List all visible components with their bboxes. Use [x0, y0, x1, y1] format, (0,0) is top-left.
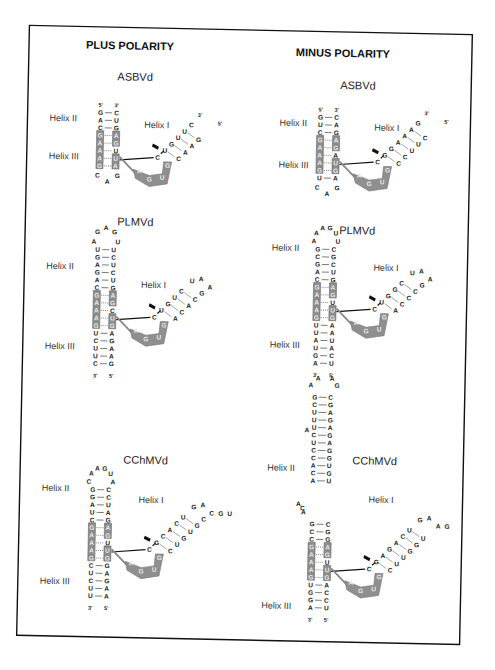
- nucleotide: U: [88, 592, 93, 599]
- ribbon-nucleotide: G: [162, 322, 167, 329]
- helix-i-nucleotide: A: [402, 132, 407, 139]
- nucleotide: G: [308, 574, 313, 581]
- helix-ii-label: Helix II: [267, 462, 295, 473]
- nucleotide: A: [104, 592, 109, 599]
- ribbon-nucleotide: G: [376, 573, 381, 580]
- nucleotide: C: [329, 352, 334, 359]
- panel-minus-plmvd: PLMVdHelix IIHelix IIIHelix IAAAGUUGCCGG…: [269, 223, 434, 381]
- nucleotide: U: [114, 117, 119, 124]
- nucleotide: U: [333, 159, 338, 166]
- helix-i-nucleotide: C: [399, 279, 404, 286]
- panel-minus-cchmvd: CChMVdHelix IIHelix IIIHelix IAAAGGCCGUA…: [261, 373, 453, 625]
- nucleotide: C: [106, 494, 111, 501]
- nucleotide: C: [311, 454, 316, 461]
- loop-nucleotide: A: [314, 229, 319, 236]
- nucleotide: U: [93, 352, 98, 359]
- nucleotide: U: [111, 246, 116, 253]
- nucleotide: G: [97, 162, 102, 169]
- ribbon-nucleotide: A: [134, 327, 139, 334]
- nucleotide: U: [331, 269, 336, 276]
- helix-i-nucleotide: U: [175, 541, 180, 548]
- base-pair: [398, 291, 405, 296]
- nucleotide: G: [328, 401, 333, 408]
- nucleotide: U: [308, 581, 313, 588]
- base-pair: [181, 139, 188, 144]
- nucleotide: G: [308, 589, 313, 596]
- nucleotide: C: [88, 577, 93, 584]
- helix-i-nucleotide: U: [188, 528, 193, 535]
- helix-i-nucleotide: A: [183, 149, 188, 156]
- nucleotide: G: [334, 382, 339, 389]
- loop-nucleotide: A: [92, 238, 97, 245]
- nucleotide: U: [312, 424, 317, 431]
- helix-i-nucleotide: U: [172, 294, 177, 301]
- panel-plus-cchmvd: CChMVdHelix IIHelix IIIHelix ICAAGUAGCGC…: [39, 452, 233, 614]
- base-pair: [412, 532, 419, 537]
- ribbon-nucleotide: U: [371, 585, 376, 592]
- nucleotide: A: [110, 292, 115, 299]
- ribbon-nucleotide: G: [367, 180, 372, 187]
- helix-i-nucleotide: C: [180, 308, 185, 315]
- nucleotide: A: [333, 175, 338, 182]
- base-pair: [178, 299, 185, 304]
- helix-i-nucleotide: U: [162, 147, 167, 154]
- nucleotide: A: [333, 152, 338, 159]
- nucleotide: C: [114, 109, 119, 116]
- column-title-minus: MINUS POLARITY: [296, 46, 391, 60]
- nucleotide: U: [113, 147, 118, 154]
- nucleotide: G: [95, 253, 100, 260]
- helix-i-nucleotide: G: [194, 522, 199, 529]
- panel-title: PLMVd: [339, 224, 375, 237]
- helix-i-nucleotide: G: [392, 286, 397, 293]
- panel-plus-asbvd: ASBVdHelix IIHelix IIIHelix I5'3'GCAUCGG…: [48, 69, 224, 188]
- nucleotide: U: [325, 566, 330, 573]
- loop-nucleotide: C: [95, 172, 100, 179]
- loop-nucleotide: A: [312, 237, 317, 244]
- nucleotide: C: [331, 246, 336, 253]
- helix-i-nucleotide: C: [168, 547, 173, 554]
- base-pair: [159, 544, 166, 549]
- nucleotide: A: [309, 381, 314, 388]
- helix-i-nucleotide: C: [396, 160, 401, 167]
- nucleotide: A: [317, 159, 322, 166]
- ribbon-nucleotide: G: [157, 554, 162, 561]
- nucleotide: A: [89, 539, 94, 546]
- nucleotide: U: [105, 539, 110, 546]
- connector-line: [331, 568, 365, 572]
- nucleotide: A: [327, 439, 332, 446]
- nucleotide: U: [324, 604, 329, 611]
- nucleotide: U: [327, 477, 332, 484]
- loop-nucleotide: A: [428, 276, 433, 283]
- helix-i-nucleotide: G: [386, 292, 391, 299]
- nucleotide: G: [308, 596, 313, 603]
- nucleotide: U: [327, 462, 332, 469]
- helix-iii-label: Helix III: [261, 600, 291, 611]
- helix-i-nucleotide: G: [419, 281, 424, 288]
- panel-plus-plmvd: PLMVdHelix IIHelix IIIHelix IAGAGUUUGCAU…: [44, 214, 214, 381]
- nucleotide: U: [314, 329, 319, 336]
- nucleotide: G: [313, 352, 318, 359]
- nucleotide: A: [98, 139, 103, 146]
- cleavage-arrow-icon: [369, 295, 380, 302]
- nucleotide: G: [330, 314, 335, 321]
- nucleotide: U: [94, 329, 99, 336]
- three-prime-label: 3': [115, 102, 120, 108]
- base-pair: [414, 131, 421, 136]
- cleavage-nucleotide: C: [147, 546, 152, 553]
- nucleotide: C: [93, 360, 98, 367]
- nucleotide: G: [324, 574, 329, 581]
- nucleotide: A: [309, 566, 314, 573]
- helix-i-nucleotide: C: [174, 520, 179, 527]
- loop-nucleotide: U: [333, 230, 338, 237]
- helix-i-nucleotide: G: [196, 136, 201, 143]
- cleavage-nucleotide: C: [155, 154, 160, 161]
- nucleotide: A: [308, 604, 313, 611]
- helix-i-nucleotide: A: [396, 139, 401, 146]
- nucleotide: G: [331, 276, 336, 283]
- helix-ii-label: Helix II: [272, 243, 300, 254]
- nucleotide: G: [333, 167, 338, 174]
- helix-i-nucleotide: U: [159, 307, 164, 314]
- three-prime-label: 3': [198, 112, 203, 118]
- nucleotide: A: [97, 147, 102, 154]
- cleavage-arrow-icon: [148, 303, 159, 310]
